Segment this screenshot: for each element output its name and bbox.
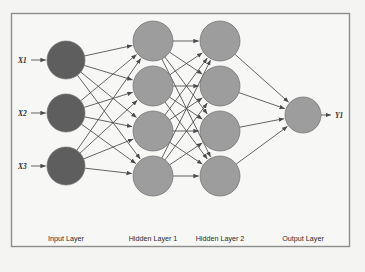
hidden2-node-1[interactable]: [200, 21, 240, 61]
hidden1-node-4[interactable]: [133, 156, 173, 196]
caption-hidden-layer-1: Hidden Layer 1: [129, 234, 178, 243]
hidden1-node-3[interactable]: [133, 111, 173, 151]
output-node-1[interactable]: [285, 97, 321, 133]
caption-hidden-layer-2: Hidden Layer 2: [196, 234, 245, 243]
neural-network-diagram: X1 X2 X3 Y1 Input Layer Hidden Layer 1 H…: [0, 0, 365, 272]
input-node-3[interactable]: [47, 147, 85, 185]
hidden1-node-1[interactable]: [133, 21, 173, 61]
input-label-x3: X3: [17, 162, 27, 171]
input-node-2[interactable]: [47, 94, 85, 132]
caption-output-layer: Output Layer: [282, 234, 324, 243]
hidden2-node-2[interactable]: [200, 66, 240, 106]
network-canvas: X1 X2 X3 Y1 Input Layer Hidden Layer 1 H…: [0, 0, 365, 272]
output-label-y1: Y1: [335, 111, 343, 120]
hidden2-node-3[interactable]: [200, 111, 240, 151]
caption-input-layer: Input Layer: [48, 234, 85, 243]
input-label-x2: X2: [17, 109, 27, 118]
input-label-x1: X1: [17, 56, 27, 65]
input-node-1[interactable]: [47, 41, 85, 79]
hidden2-node-4[interactable]: [200, 156, 240, 196]
hidden1-node-2[interactable]: [133, 66, 173, 106]
